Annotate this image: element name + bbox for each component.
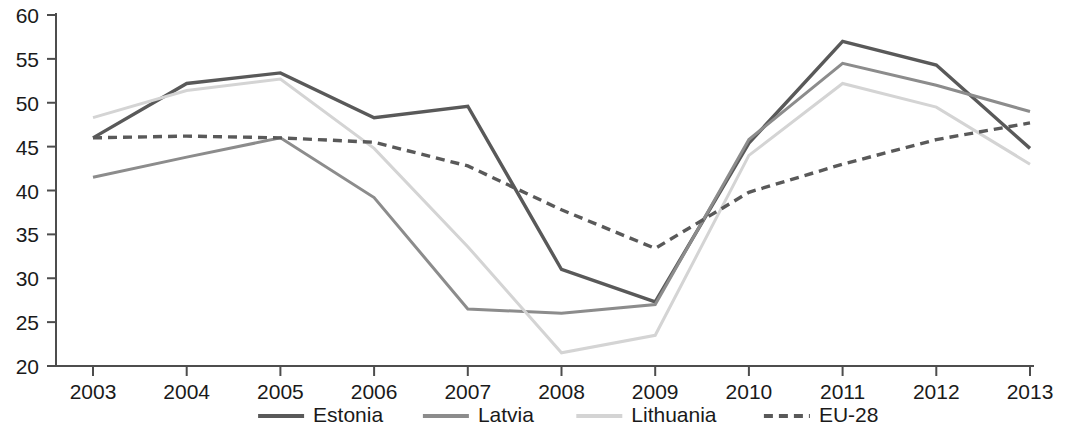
x-tick-label: 2011	[820, 380, 865, 403]
legend-item-lithuania[interactable]: Lithuania	[576, 403, 717, 426]
x-axis: 2003200420052006200720082009201020112012…	[54, 366, 1053, 403]
series-line-estonia	[93, 41, 1030, 302]
x-tick-label: 2009	[632, 380, 679, 403]
y-tick-label: 40	[16, 180, 39, 203]
x-tick-label: 2012	[913, 380, 960, 403]
y-tick-label: 45	[16, 136, 39, 159]
series-line-eu-28	[93, 123, 1030, 248]
y-tick-label: 55	[16, 48, 39, 71]
legend-label: Latvia	[478, 403, 534, 426]
legend-label: EU-28	[819, 403, 879, 426]
chart-legend: EstoniaLatviaLithuaniaEU-28	[258, 403, 878, 426]
y-axis: 202530354045505560	[16, 4, 56, 378]
y-tick-label: 20	[16, 355, 39, 378]
x-tick-label: 2013	[1007, 380, 1054, 403]
y-tick-label: 60	[16, 4, 39, 27]
y-tick-label: 50	[16, 92, 39, 115]
x-tick-label: 2007	[444, 380, 491, 403]
x-axis-ticks: 2003200420052006200720082009201020112012…	[70, 366, 1054, 403]
y-axis-ticks: 202530354045505560	[16, 4, 56, 378]
x-tick-label: 2004	[163, 380, 210, 403]
x-tick-label: 2008	[538, 380, 585, 403]
y-tick-label: 30	[16, 267, 39, 290]
series-line-latvia	[93, 63, 1030, 313]
legend-item-eu-28[interactable]: EU-28	[764, 403, 879, 426]
x-tick-label: 2010	[726, 380, 773, 403]
x-tick-label: 2003	[70, 380, 117, 403]
data-series-group	[93, 41, 1030, 353]
series-line-lithuania	[93, 79, 1030, 353]
x-tick-label: 2006	[351, 380, 398, 403]
x-tick-label: 2005	[257, 380, 304, 403]
line-chart: 202530354045505560 200320042005200620072…	[0, 0, 1065, 436]
legend-item-latvia[interactable]: Latvia	[423, 403, 534, 426]
legend-label: Lithuania	[631, 403, 717, 426]
y-tick-label: 25	[16, 311, 39, 334]
legend-label: Estonia	[313, 403, 383, 426]
legend-item-estonia[interactable]: Estonia	[258, 403, 383, 426]
chart-canvas: 202530354045505560 200320042005200620072…	[0, 0, 1065, 436]
y-tick-label: 35	[16, 223, 39, 246]
